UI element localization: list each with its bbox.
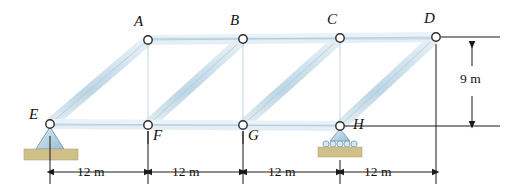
node-label-E: E [29,107,38,122]
support-pin-E [24,127,78,160]
joint-C [336,34,344,42]
roller-wheel [337,141,343,147]
bottom-chord [47,124,343,126]
joint-E [46,120,54,128]
dimension-label-span-2: 12 m [172,165,199,179]
seam-G-C [243,38,340,125]
node-label-A: A [134,14,143,29]
roller-wheels [323,141,357,147]
seam-F-B [148,39,243,125]
node-label-H: H [353,117,364,132]
joint-F [144,121,152,129]
joint-D [432,33,440,41]
top-chord [145,37,439,40]
joint-G [239,121,247,129]
truss-members [47,37,439,126]
roller-wheel [330,141,336,147]
node-label-D: D [424,11,435,26]
support-roller-H [318,129,362,157]
ground-block-H [318,147,362,157]
ground-block-E [24,149,78,160]
joint-A [144,36,152,44]
dimension-label-span-3: 12 m [268,165,295,179]
roller-wheel [351,141,357,147]
joint-B [239,35,247,43]
vertical-members [148,38,340,126]
node-label-C: C [327,12,337,27]
dimension-label-height: 9 m [460,72,481,86]
dimension-label-span-4: 12 m [364,165,391,179]
roller-wheel [323,141,329,147]
label-leader-ticks [148,131,243,144]
seam-E-A [50,40,148,124]
node-label-G: G [248,128,259,143]
seam-H-D [340,37,436,126]
node-label-B: B [230,13,239,28]
node-label-F: F [153,128,162,143]
roller-wheel [344,141,350,147]
dimension-label-span-1: 12 m [77,165,104,179]
joint-H [336,122,344,130]
truss-figure: A B C D E F G H 12 m 12 m 12 m 12 m 9 m [0,0,512,194]
